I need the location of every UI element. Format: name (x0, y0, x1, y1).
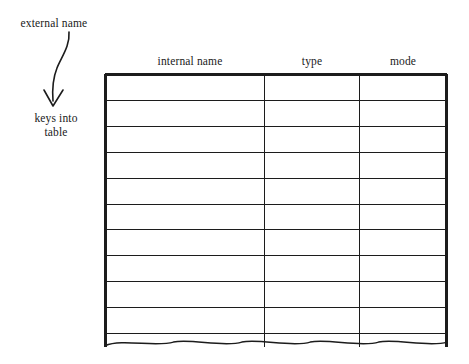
table-torn-bottom-edge (105, 341, 447, 345)
symbol-table-diagram: external name keys into table internal n… (0, 0, 469, 364)
symbol-table-grid (0, 0, 469, 364)
